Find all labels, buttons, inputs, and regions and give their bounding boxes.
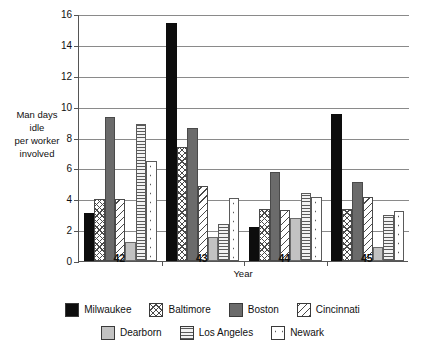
legend-item-dearborn[interactable]: Dearborn — [101, 326, 162, 340]
y-axis-tick-label: 4 — [66, 195, 72, 205]
y-axis-tick-label: 0 — [66, 257, 72, 267]
gridline — [79, 169, 409, 170]
gridline — [79, 77, 409, 78]
y-axis-tick-label: 16 — [61, 10, 72, 20]
bar-los-angeles-44 — [301, 193, 311, 261]
legend-label: Dearborn — [120, 327, 162, 338]
legend-item-newark[interactable]: Newark — [271, 326, 324, 340]
x-axis-tick-label-44: 44 — [278, 252, 290, 264]
legend-item-milwaukee[interactable]: Milwaukee — [65, 303, 131, 317]
bar-newark-42 — [146, 161, 156, 261]
bar-dearborn-43 — [208, 237, 218, 261]
legend-item-cincinnati[interactable]: Cincinnati — [297, 303, 360, 317]
y-axis-tick-label: 10 — [61, 103, 72, 113]
bar-baltimore-45 — [342, 209, 352, 261]
legend-swatch-icon — [101, 326, 115, 340]
bar-dearborn-44 — [290, 218, 300, 261]
legend-label: Milwaukee — [84, 304, 131, 315]
bar-newark-45 — [394, 211, 404, 261]
x-axis-title: Year — [78, 268, 408, 279]
y-axis-tick — [74, 108, 79, 109]
legend-label: Boston — [248, 304, 279, 315]
x-axis-tick-label-45: 45 — [361, 252, 373, 264]
y-axis-tick — [74, 200, 79, 201]
bar-milwaukee-45 — [331, 114, 341, 261]
legend-label: Newark — [290, 327, 324, 338]
legend-label: Los Angeles — [199, 327, 254, 338]
bar-baltimore-42 — [94, 199, 104, 261]
x-axis-tick — [244, 261, 245, 266]
legend-swatch-icon — [297, 303, 311, 317]
bar-boston-44 — [270, 172, 280, 261]
legend-item-baltimore[interactable]: Baltimore — [149, 303, 210, 317]
gridline — [79, 15, 409, 16]
legend-item-boston[interactable]: Boston — [229, 303, 279, 317]
bar-milwaukee-43 — [166, 23, 176, 261]
legend-swatch-icon — [149, 303, 163, 317]
y-axis-tick — [74, 231, 79, 232]
y-axis-title: Man days idle per worker involved — [2, 108, 72, 160]
legend-row-top: MilwaukeeBaltimoreBostonCincinnati — [0, 298, 425, 321]
bar-milwaukee-42 — [84, 213, 94, 261]
x-axis-tick-label-42: 42 — [113, 252, 125, 264]
bar-milwaukee-44 — [249, 227, 259, 261]
bar-los-angeles-42 — [136, 124, 146, 261]
gridline — [79, 108, 409, 109]
bar-newark-44 — [311, 197, 321, 261]
y-axis-title-line-3: per worker — [2, 134, 72, 147]
x-axis-tick — [162, 261, 163, 266]
bar-boston-45 — [352, 182, 362, 262]
y-axis-tick-label: 8 — [66, 134, 72, 144]
y-axis-title-line-4: involved — [2, 147, 72, 160]
y-axis-tick-label: 6 — [66, 164, 72, 174]
bar-boston-42 — [105, 117, 115, 261]
legend-label: Cincinnati — [316, 304, 360, 315]
legend-label: Baltimore — [168, 304, 210, 315]
bar-los-angeles-45 — [383, 215, 393, 261]
y-axis-tick — [74, 262, 79, 263]
y-axis-title-line-2: idle — [2, 121, 72, 134]
legend-swatch-icon — [229, 303, 243, 317]
bar-dearborn-42 — [125, 242, 135, 261]
plot-area: 0246810121416 — [78, 15, 408, 262]
y-axis-tick — [74, 169, 79, 170]
gridline — [79, 46, 409, 47]
bar-dearborn-45 — [373, 247, 383, 261]
x-axis-tick — [327, 261, 328, 266]
y-axis-tick — [74, 77, 79, 78]
bar-baltimore-43 — [177, 147, 187, 261]
bar-chart: Man days idle per worker involved 024681… — [0, 0, 425, 352]
x-axis-tick-label-43: 43 — [196, 252, 208, 264]
legend-row-bottom: DearbornLos AngelesNewark — [0, 321, 425, 344]
bar-los-angeles-43 — [218, 224, 228, 261]
y-axis-tick-label: 12 — [61, 72, 72, 82]
bar-newark-43 — [229, 198, 239, 261]
legend-swatch-icon — [65, 303, 79, 317]
y-axis-tick — [74, 46, 79, 47]
bar-baltimore-44 — [259, 209, 269, 261]
legend-swatch-icon — [271, 326, 285, 340]
legend-swatch-icon — [180, 326, 194, 340]
bar-cincinnati-43 — [198, 186, 208, 261]
y-axis-tick — [74, 15, 79, 16]
gridline — [79, 139, 409, 140]
y-axis-tick-label: 2 — [66, 226, 72, 236]
y-axis-tick — [74, 139, 79, 140]
legend-item-los-angeles[interactable]: Los Angeles — [180, 326, 254, 340]
chart-legend: MilwaukeeBaltimoreBostonCincinnati Dearb… — [0, 298, 425, 344]
y-axis-tick-label: 14 — [61, 41, 72, 51]
bar-boston-43 — [187, 128, 197, 261]
